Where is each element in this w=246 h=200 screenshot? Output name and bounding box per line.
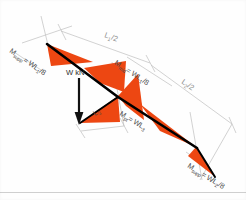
point-load-label: W kN xyxy=(66,68,85,77)
bottom-divider xyxy=(0,192,246,193)
bending-moment-diagram: W kN L1/2 L2/2 L3 Msupp= WL1/8 xyxy=(0,0,246,200)
figure-canvas: W kN L1/2 L2/2 L3 Msupp= WL1/8 xyxy=(0,0,246,200)
